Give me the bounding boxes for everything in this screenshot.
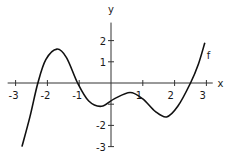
function-graph: x y -3-2-112321-2-3 f <box>0 0 225 160</box>
y-tick-label: 2 <box>100 36 106 47</box>
x-tick-label: 2 <box>168 90 174 101</box>
y-tick-label: -3 <box>96 142 106 153</box>
x-tick-label: -3 <box>9 90 19 101</box>
x-axis-label: x <box>218 78 224 89</box>
series-label-f: f <box>207 50 211 61</box>
y-axis-label: y <box>108 4 114 15</box>
ticks: -3-2-112321-2-3 <box>9 36 207 153</box>
x-tick-label: -2 <box>40 90 50 101</box>
x-tick-label: -1 <box>72 90 82 101</box>
y-tick-label: -2 <box>96 120 106 131</box>
x-tick-label: 3 <box>199 90 205 101</box>
y-tick-label: 1 <box>100 57 106 68</box>
